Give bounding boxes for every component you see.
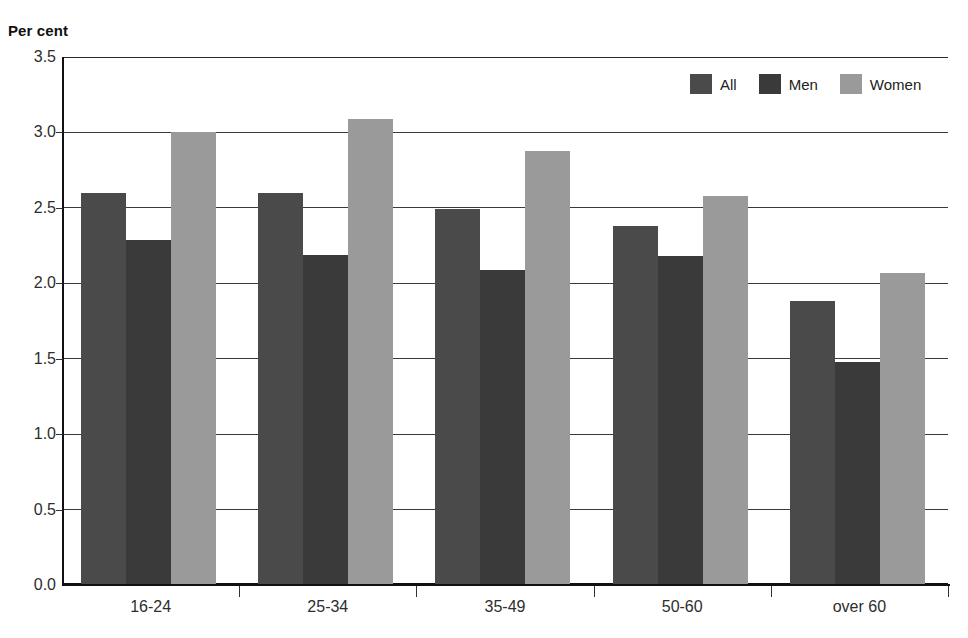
y-axis-line (62, 57, 64, 586)
bar-all-50-60 (613, 226, 658, 585)
x-axis-tick-label: 25-34 (307, 598, 348, 616)
legend-entry-all[interactable]: All (690, 74, 737, 94)
y-axis-tick-label: 0.0 (4, 576, 56, 594)
legend-swatch-icon (840, 74, 862, 94)
legend-entry-men[interactable]: Men (759, 74, 818, 94)
bar-group (771, 57, 948, 585)
legend-swatch-icon (759, 74, 781, 94)
legend-label: Men (789, 76, 818, 93)
x-axis-tick-mark (771, 586, 772, 597)
bar-all-35-49 (435, 209, 480, 585)
y-axis-tick-mark (56, 434, 63, 435)
x-axis-tick-mark (416, 586, 417, 597)
x-axis-tick-mark (948, 586, 949, 597)
y-axis-tick-labels: 0.00.51.01.52.02.53.03.5 (0, 57, 56, 586)
bar-women-35-49 (525, 151, 570, 585)
x-axis-tick-label: 16-24 (130, 598, 171, 616)
bar-women-over-60 (880, 273, 925, 585)
bar-group (62, 57, 239, 585)
y-axis-tick-label: 2.5 (4, 199, 56, 217)
x-axis-tick-label: 35-49 (485, 598, 526, 616)
bar-men-25-34 (303, 255, 348, 585)
bar-women-16-24 (171, 132, 216, 585)
bar-women-50-60 (703, 196, 748, 585)
x-axis-tick-label: over 60 (833, 598, 886, 616)
y-axis-tick-mark (56, 510, 63, 511)
bar-men-over-60 (835, 362, 880, 585)
bar-women-25-34 (348, 119, 393, 585)
y-axis-tick-mark (56, 208, 63, 209)
legend-swatch-icon (690, 74, 712, 94)
bar-men-50-60 (658, 256, 703, 585)
bar-group (239, 57, 416, 585)
y-axis-tick-mark (56, 283, 63, 284)
y-axis-tick-label: 3.5 (4, 48, 56, 66)
y-axis-tick-label: 0.5 (4, 501, 56, 519)
bar-all-25-34 (258, 193, 303, 585)
bar-men-16-24 (126, 240, 171, 585)
x-axis-tick-mark (239, 586, 240, 597)
x-axis-line (62, 584, 950, 586)
bar-group (594, 57, 771, 585)
legend-label: Women (870, 76, 921, 93)
x-axis-tick-mark (594, 586, 595, 597)
legend-label: All (720, 76, 737, 93)
legend-entry-women[interactable]: Women (840, 74, 921, 94)
y-axis-tick-label: 2.0 (4, 274, 56, 292)
y-axis-title: Per cent (8, 22, 68, 39)
y-axis-tick-label: 3.0 (4, 123, 56, 141)
plot-area (62, 57, 948, 585)
y-axis-tick-mark (56, 132, 63, 133)
bar-all-16-24 (81, 193, 126, 585)
y-axis-tick-mark (56, 359, 63, 360)
bar-men-35-49 (480, 270, 525, 585)
bar-chart: Per cent 0.00.51.01.52.02.53.03.5 16-242… (0, 0, 968, 638)
bar-all-over-60 (790, 301, 835, 585)
y-axis-tick-label: 1.5 (4, 350, 56, 368)
chart-legend: AllMenWomen (690, 74, 921, 94)
x-axis-tick-label: 50-60 (662, 598, 703, 616)
bar-group (416, 57, 593, 585)
y-axis-tick-label: 1.0 (4, 425, 56, 443)
